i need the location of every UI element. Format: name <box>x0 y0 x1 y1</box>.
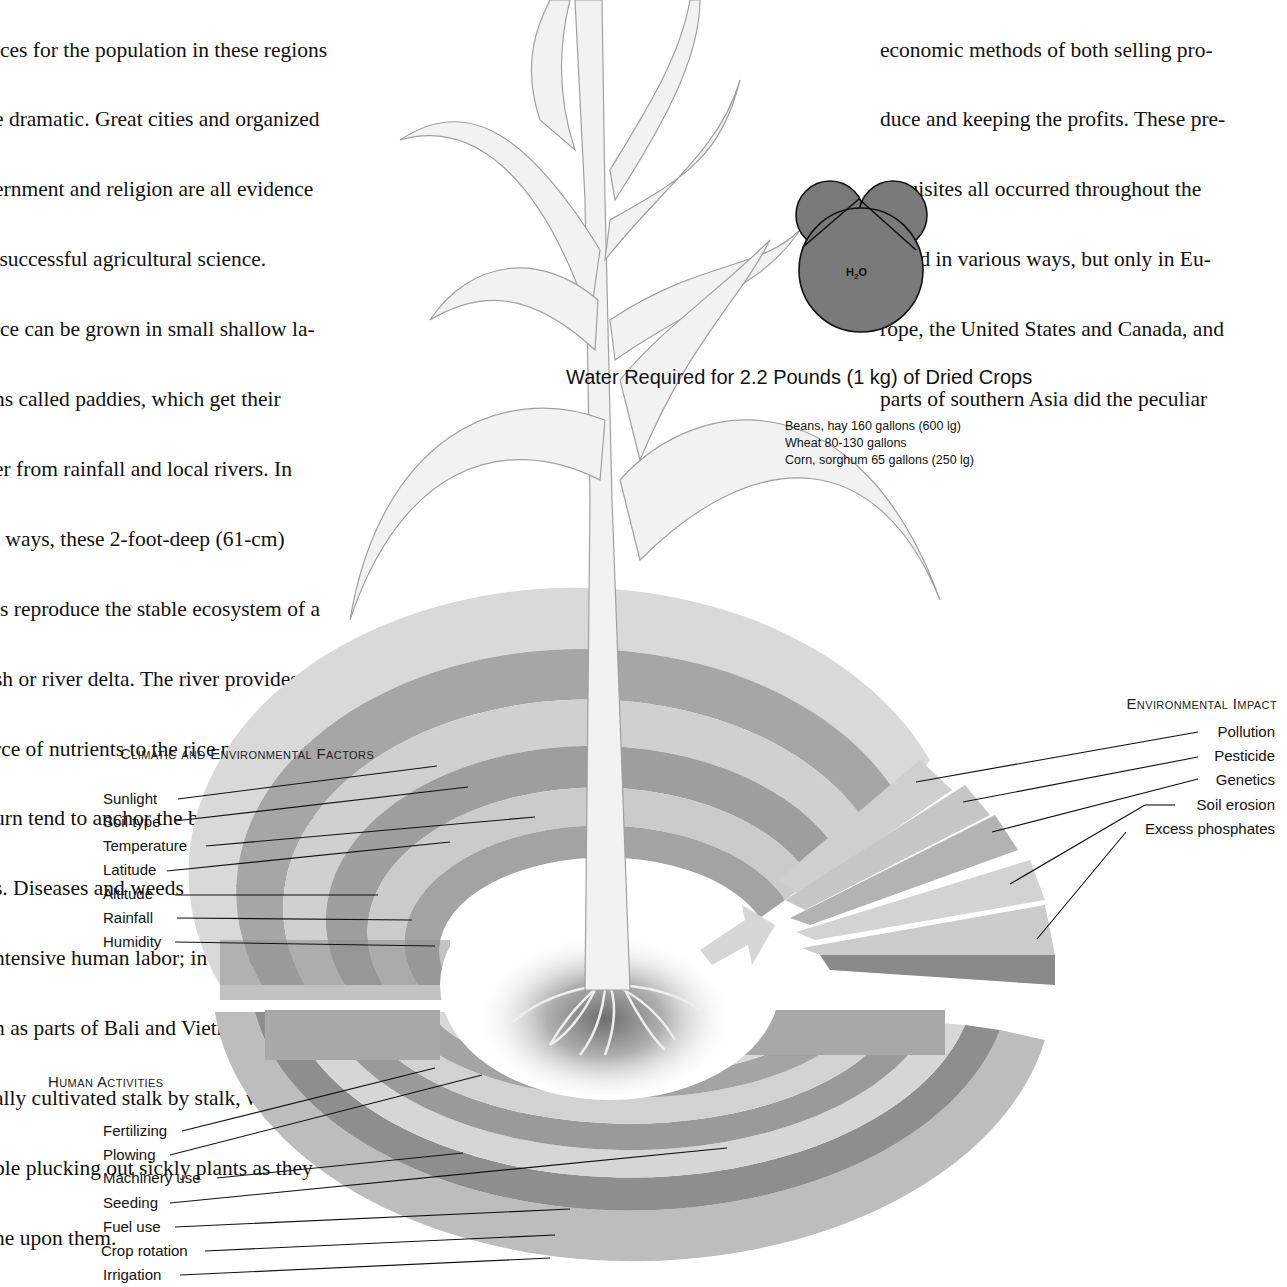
label-fuel-use: Fuel use <box>103 1218 161 1235</box>
label-pollution: Pollution <box>1217 723 1275 740</box>
human-activities-title: Human Activities <box>48 1073 164 1090</box>
label-sunlight: Sunlight <box>103 790 157 807</box>
label-genetics: Genetics <box>1216 771 1275 788</box>
label-crop-rotation: Crop rotation <box>101 1242 188 1259</box>
environmental-impact-title: Environmental Impact <box>1126 695 1277 712</box>
h2o-label: H2O <box>846 266 867 281</box>
water-item: Wheat 80-130 gallons <box>785 435 974 452</box>
label-latitude: Latitude <box>103 861 156 878</box>
corn-plant-diagram <box>0 0 1287 1287</box>
label-plowing: Plowing <box>103 1146 156 1163</box>
label-pesticide: Pesticide <box>1214 747 1275 764</box>
label-machinery-use: Machinery use <box>103 1169 201 1186</box>
label-altitude: Altitude <box>103 885 153 902</box>
water-item: Corn, sorghum 65 gallons (250 lg) <box>785 452 974 469</box>
label-soil-erosion: Soil erosion <box>1197 796 1275 813</box>
label-humidity: Humidity <box>103 933 161 950</box>
water-required-list: Beans, hay 160 gallons (600 lg) Wheat 80… <box>785 418 974 469</box>
climatic-factors-title: Climatic and Environmental Factors <box>120 745 374 762</box>
label-excess-phosphates: Excess phosphates <box>1145 820 1275 837</box>
label-irrigation: Irrigation <box>103 1266 161 1283</box>
label-rainfall: Rainfall <box>103 909 153 926</box>
label-soil-type: Soil type <box>103 813 161 830</box>
water-required-title: Water Required for 2.2 Pounds (1 kg) of … <box>566 366 1032 389</box>
water-molecule <box>796 181 927 332</box>
label-temperature: Temperature <box>103 837 187 854</box>
label-seeding: Seeding <box>103 1194 158 1211</box>
label-fertilizing: Fertilizing <box>103 1122 167 1139</box>
water-item: Beans, hay 160 gallons (600 lg) <box>785 418 974 435</box>
